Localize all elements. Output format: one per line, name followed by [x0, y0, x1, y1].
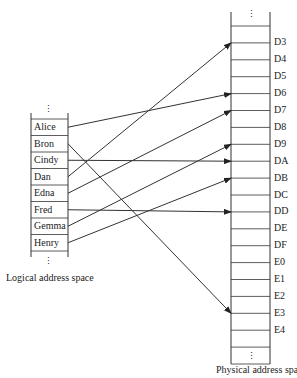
- logical-entry: Edna: [34, 185, 55, 201]
- physical-frame-label: DD: [274, 203, 288, 219]
- physical-frame-label: E2: [274, 288, 285, 304]
- mapping-arrow: [68, 111, 231, 194]
- logical-entry: Henry: [34, 235, 59, 251]
- physical-frame-label: DE: [274, 220, 287, 236]
- physical-frame-label: D5: [274, 68, 286, 84]
- physical-frame-label: D7: [274, 102, 286, 118]
- physical-caption: Physical address space: [216, 364, 297, 375]
- physical-frame-label: E1: [274, 271, 285, 287]
- mapping-arrow: [68, 160, 231, 161]
- physical-frame-label: E3: [274, 305, 285, 321]
- physical-frame-label: D9: [274, 136, 286, 152]
- physical-frame-label: E4: [274, 322, 285, 338]
- physical-frame-label: DA: [274, 153, 288, 169]
- physical-top-ellipsis: ⋮: [247, 9, 256, 19]
- logical-entry: Gemma: [34, 218, 66, 234]
- physical-frame-label: DB: [274, 170, 288, 186]
- logical-entry: Fred: [34, 202, 52, 218]
- logical-bottom-ellipsis: ⋮: [44, 256, 53, 266]
- mapping-arrow: [68, 144, 231, 314]
- logical-caption: Logical address space: [6, 272, 94, 283]
- physical-frame-label: D6: [274, 85, 286, 101]
- physical-frame-label: E0: [274, 254, 285, 270]
- physical-bottom-ellipsis: ⋮: [247, 351, 256, 361]
- logical-entry: Cindy: [34, 152, 58, 168]
- physical-frame-label: D8: [274, 119, 286, 135]
- logical-entry: Alice: [34, 119, 56, 135]
- address-mapping-diagram: AliceBronCindyDanEdnaFredGemmaHenry D3D4…: [0, 0, 297, 378]
- logical-top-ellipsis: ⋮: [44, 104, 53, 114]
- physical-address-table: [231, 12, 270, 364]
- physical-frame-label: D4: [274, 51, 286, 67]
- physical-frame-label: D3: [274, 34, 286, 50]
- physical-frame-label: DC: [274, 187, 288, 203]
- logical-entry: Bron: [34, 136, 54, 152]
- logical-entry: Dan: [34, 169, 51, 185]
- physical-frame-label: DF: [274, 237, 287, 253]
